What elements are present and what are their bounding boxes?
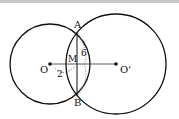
two-circles-diagram: A B O O' M 6 2 bbox=[0, 0, 179, 119]
label-o-prime: O' bbox=[120, 64, 131, 75]
label-b: B bbox=[74, 97, 81, 108]
point-o bbox=[48, 62, 52, 66]
label-o: O bbox=[40, 64, 48, 75]
diagram-canvas: A B O O' M 6 2 bbox=[0, 0, 179, 119]
label-a: A bbox=[73, 19, 82, 30]
label-m: M bbox=[68, 54, 77, 64]
point-o-prime bbox=[114, 62, 118, 66]
label-am-length: 6 bbox=[81, 48, 87, 58]
label-om-length: 2 bbox=[57, 69, 63, 79]
